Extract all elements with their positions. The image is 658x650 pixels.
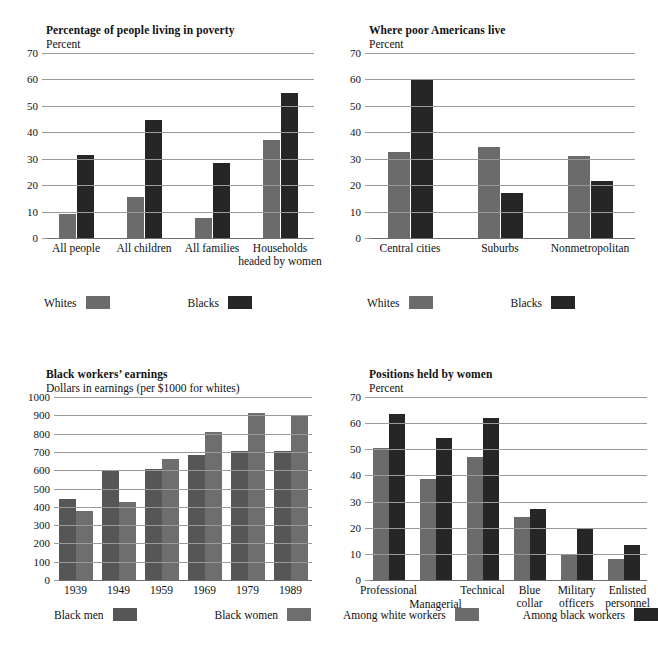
chart-legend: WhitesBlacks <box>44 296 252 309</box>
bar-group <box>608 397 640 580</box>
gridline <box>365 212 635 213</box>
bar <box>420 479 436 580</box>
y-axis-tick-label: 30 <box>350 496 361 507</box>
gridline <box>365 397 647 398</box>
legend-swatch <box>113 608 137 621</box>
bar <box>608 559 624 580</box>
y-axis-tick-label: 10 <box>27 206 38 217</box>
legend-swatch <box>287 608 311 621</box>
bar <box>501 193 523 238</box>
gridline <box>42 106 314 107</box>
gridline <box>42 53 314 54</box>
gridline <box>42 79 314 80</box>
y-axis-tick-mark <box>42 106 47 107</box>
bar <box>145 120 162 238</box>
gridline <box>42 132 314 133</box>
chart-axis-unit-label: Percent <box>369 38 643 50</box>
plot-canvas: 010203040506070 <box>365 53 635 238</box>
plot-area: 010203040506070 Central citiesSuburbsNon… <box>337 53 643 276</box>
y-axis-tick-label: 400 <box>34 501 51 512</box>
legend-entry[interactable]: Among black workers <box>523 608 658 621</box>
gridline <box>54 543 312 544</box>
legend-label: Whites <box>44 297 77 309</box>
y-axis-tick-mark <box>365 212 370 213</box>
gridline <box>54 470 312 471</box>
chart-axis-unit-label: Percent <box>46 38 322 50</box>
y-axis-tick-label: 30 <box>27 153 38 164</box>
legend-entry[interactable]: Whites <box>367 296 433 309</box>
legend-swatch <box>455 608 479 621</box>
plot-canvas: 010203040506070 <box>365 397 647 580</box>
y-axis-tick-mark <box>42 185 47 186</box>
bar-layer <box>365 53 635 238</box>
y-axis-tick-label: 60 <box>350 74 361 85</box>
bar <box>388 152 410 238</box>
y-axis-tick-mark <box>365 185 370 186</box>
x-axis-tick-label: Professional <box>360 584 417 597</box>
legend-entry[interactable]: Among white workers <box>343 608 479 621</box>
x-axis-tick-label: 1959 <box>150 584 173 597</box>
bar-layer <box>365 397 647 580</box>
x-axis-labels: Central citiesSuburbsNonmetropolitan <box>365 242 635 276</box>
y-axis-tick-mark <box>54 507 59 508</box>
plot-canvas: 01002003004005006007008009001000 <box>54 397 312 580</box>
bar-layer <box>42 53 314 238</box>
bar <box>291 415 308 580</box>
y-axis-tick-label: 0 <box>45 575 51 586</box>
gridline <box>42 159 314 160</box>
y-axis-tick-label: 20 <box>27 180 38 191</box>
y-axis-tick-mark <box>42 159 47 160</box>
bar <box>568 156 590 238</box>
y-axis-tick-label: 0 <box>33 233 39 244</box>
legend-entry[interactable]: Blacks <box>511 296 575 309</box>
gridline <box>365 185 635 186</box>
y-axis-tick-label: 600 <box>34 465 51 476</box>
plot-area: 01002003004005006007008009001000 1939194… <box>14 397 322 618</box>
x-axis-tick-label: Blue collar <box>516 584 542 610</box>
legend-entry[interactable]: Whites <box>44 296 110 309</box>
bar-group <box>373 397 405 580</box>
bar-group <box>195 53 230 238</box>
chart-panel-positions-held-by-women: Positions held by women Percent 01020304… <box>333 368 643 650</box>
legend-swatch <box>228 296 252 309</box>
y-axis-tick-label: 40 <box>27 127 38 138</box>
legend-entry[interactable]: Blacks <box>188 296 252 309</box>
x-axis-tick-label: 1969 <box>193 584 216 597</box>
y-axis-tick-label: 40 <box>350 470 361 481</box>
y-axis-tick-mark <box>365 554 370 555</box>
legend-entry[interactable]: Black men <box>54 608 137 621</box>
y-axis-tick-label: 100 <box>34 556 51 567</box>
legend-label: Among black workers <box>523 609 625 621</box>
bar <box>127 197 144 238</box>
y-axis-tick-label: 50 <box>27 100 38 111</box>
y-axis-tick-label: 70 <box>350 392 361 403</box>
y-axis-tick-label: 50 <box>350 444 361 455</box>
chart-legend: Among white workersAmong black workers <box>343 608 658 621</box>
bar <box>436 438 452 580</box>
legend-swatch <box>86 296 110 309</box>
chart-legend: Black menBlack women <box>54 608 311 621</box>
bar <box>195 218 212 238</box>
gridline <box>365 475 647 476</box>
gridline <box>365 238 635 239</box>
legend-entry[interactable]: Black women <box>215 608 312 621</box>
y-axis-tick-mark <box>42 238 47 239</box>
bar-group <box>478 53 523 238</box>
legend-label: Among white workers <box>343 609 446 621</box>
y-axis-tick-mark <box>365 528 370 529</box>
chart-legend: WhitesBlacks <box>367 296 575 309</box>
y-axis-tick-mark <box>54 470 59 471</box>
y-axis-tick-mark <box>365 580 370 581</box>
y-axis-tick-mark <box>365 449 370 450</box>
gridline <box>54 397 312 398</box>
chart-panel-where-poor-live: Where poor Americans live Percent 010203… <box>333 24 643 342</box>
y-axis-tick-mark <box>42 79 47 80</box>
gridline <box>54 434 312 435</box>
y-axis-tick-mark <box>54 434 59 435</box>
bar <box>591 181 613 238</box>
y-axis-tick-mark <box>42 53 47 54</box>
legend-swatch <box>634 608 658 621</box>
gridline <box>365 502 647 503</box>
gridline <box>54 525 312 526</box>
